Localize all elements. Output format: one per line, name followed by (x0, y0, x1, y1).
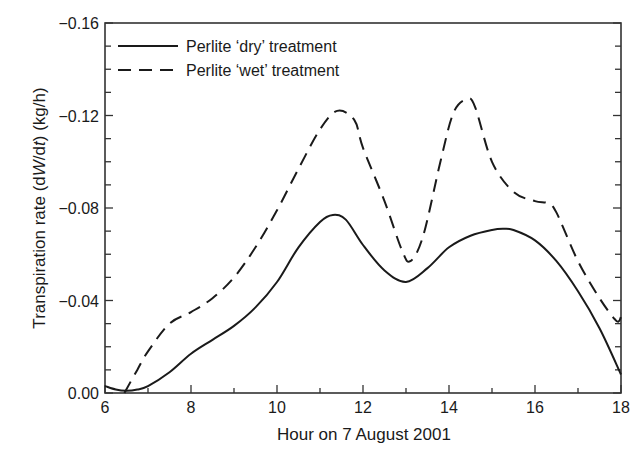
series-lines (105, 98, 621, 393)
legend-label-wet: Perlite ‘wet’ treatment (186, 62, 340, 79)
x-tick-label: 18 (612, 399, 630, 416)
x-tick-label: 12 (354, 399, 372, 416)
legend: Perlite ‘dry’ treatment Perlite ‘wet’ tr… (118, 38, 340, 79)
x-tick-label: 6 (101, 399, 110, 416)
y-tick-label: 0.00 (68, 385, 99, 402)
y-axis-label-prefix: Transpiration rate (d (30, 176, 49, 328)
y-axis-label-suffix: ) (kg/h) (30, 87, 49, 141)
axis-ticks (105, 23, 621, 393)
plot-area (105, 23, 621, 393)
y-tick-label: −0.04 (59, 293, 100, 310)
x-tick-label: 16 (526, 399, 544, 416)
x-tick-label: 8 (187, 399, 196, 416)
series-line-dry (105, 215, 621, 391)
legend-label-dry: Perlite ‘dry’ treatment (186, 38, 337, 55)
transpiration-chart: 6810121416180.00−0.04−0.08−0.12−0.16 Per… (0, 0, 642, 460)
x-axis-label: Hour on 7 August 2001 (277, 425, 451, 444)
x-tick-label: 14 (440, 399, 458, 416)
y-axis-label-slash: /d (30, 146, 49, 160)
y-tick-label: −0.08 (59, 200, 100, 217)
y-tick-label: −0.12 (59, 108, 100, 125)
plot-border (105, 23, 621, 393)
x-tick-label: 10 (268, 399, 286, 416)
y-tick-label: −0.16 (59, 15, 100, 32)
y-axis-label: Transpiration rate (dW/dt) (kg/h) (30, 87, 49, 328)
